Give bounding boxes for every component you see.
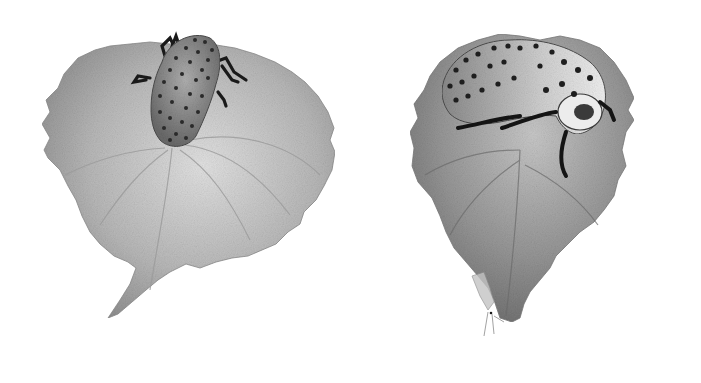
illustration-scene: Pencil illustration of two spotted beetl… bbox=[0, 0, 701, 383]
